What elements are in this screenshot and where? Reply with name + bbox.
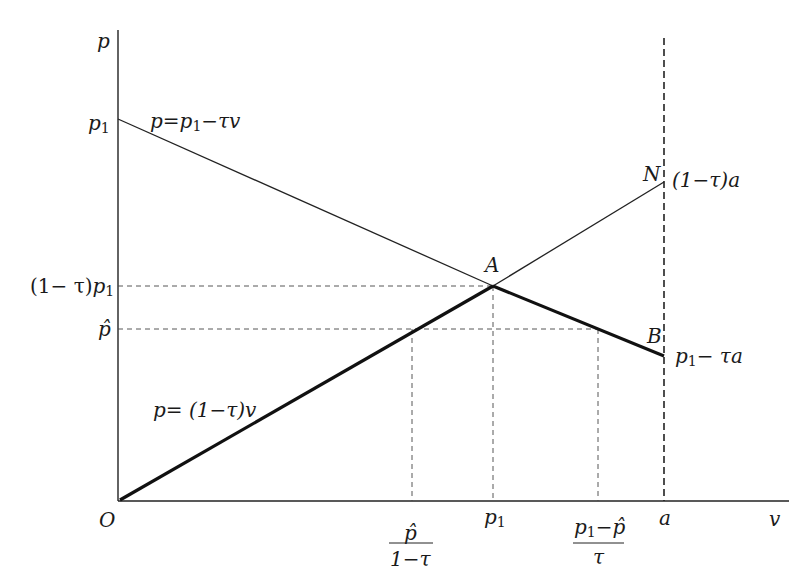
y-tick-1mtau-p1: (1− τ)p1 <box>30 274 114 299</box>
point-n-label: N <box>642 162 662 186</box>
demand-line-thick <box>493 286 664 356</box>
svg-text:1−τ: 1−τ <box>390 547 431 571</box>
svg-text:p̂: p̂ <box>404 521 417 545</box>
y-axis-label: p <box>97 29 110 53</box>
supply-line-thick <box>120 286 493 500</box>
x-tick-p1mphat-over-tau: p1−p̂ τ <box>573 515 625 569</box>
x-tick-a: a <box>659 506 671 530</box>
x-tick-p1: p1 <box>484 505 506 530</box>
supply-line-thin <box>493 182 664 286</box>
b-value-label: p1− τa <box>675 344 743 369</box>
diagram-canvas: p v O p1 (1− τ)p1 p̂ p̂ 1−τ p1 p1−p̂ τ a… <box>0 0 809 571</box>
n-value-label: (1−τ)a <box>672 168 740 192</box>
svg-text:p1−p̂: p1−p̂ <box>574 515 625 540</box>
y-tick-p1: p1 <box>88 111 110 136</box>
x-axis-label: v <box>769 507 781 531</box>
demand-curve-label: p=p1−τv <box>150 109 241 134</box>
x-tick-phat-over-1mtau: p̂ 1−τ <box>389 521 433 571</box>
point-b-label: B <box>646 324 662 348</box>
demand-line-thin <box>118 119 493 286</box>
point-a-label: A <box>483 253 499 277</box>
supply-curve-label: p= (1−τ)v <box>153 398 257 422</box>
svg-text:τ: τ <box>593 545 605 569</box>
origin-label: O <box>99 508 115 532</box>
y-tick-phat: p̂ <box>98 317 111 341</box>
